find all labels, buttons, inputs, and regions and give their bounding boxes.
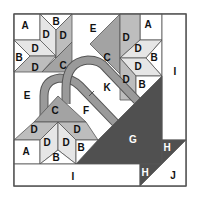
label-D-tr-4: D (122, 74, 129, 85)
label-D-tr-3: D (134, 61, 141, 72)
label-D-tr-1: D (122, 32, 129, 43)
label-K: K (103, 82, 111, 93)
label-C-bl: C (51, 105, 58, 116)
label-D-bl-1: D (30, 124, 37, 135)
label-D-tl-3: D (31, 43, 38, 54)
piece-I-bottom (14, 164, 140, 186)
label-A-top-left: A (21, 20, 28, 31)
label-B-bl-bottom: B (52, 152, 59, 163)
label-I-bottom: I (72, 171, 75, 182)
label-D-bl-3: D (62, 137, 69, 148)
label-H-upper: H (163, 142, 170, 153)
label-D-tl-4: D (31, 62, 38, 73)
label-B-bl-right: B (77, 142, 84, 153)
label-B-tl-left: B (15, 52, 22, 63)
label-D-tl-1: D (42, 29, 49, 40)
label-E-left: E (24, 90, 31, 101)
label-D-tr-2: D (134, 43, 141, 54)
label-B-tl-top: B (52, 16, 59, 27)
piece-I-right (162, 14, 186, 140)
label-H-lower: H (141, 167, 148, 178)
label-D-bl-4: D (73, 124, 80, 135)
label-A-top-right: A (144, 19, 151, 30)
label-A-bl: A (22, 146, 29, 157)
label-F: F (83, 105, 89, 116)
label-E-top: E (90, 23, 97, 34)
label-D-bl-2: D (43, 137, 50, 148)
label-G: G (129, 134, 137, 145)
label-B-tr-2: B (138, 79, 145, 90)
label-B-tr-1: B (150, 52, 157, 63)
label-I-right: I (174, 66, 177, 77)
label-J: J (170, 170, 176, 181)
quilt-block-diagram: A B D D D B D C E A D C D B D D B I E K … (0, 0, 197, 203)
label-D-tl-2: D (59, 30, 66, 41)
label-C-tr: C (103, 52, 110, 63)
label-C-tl: C (59, 60, 66, 71)
